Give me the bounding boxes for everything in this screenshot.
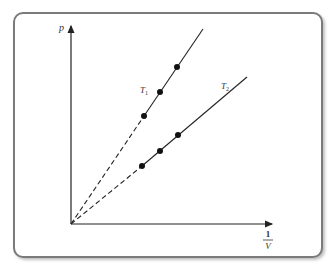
y-axis-label: p xyxy=(58,22,64,33)
t1-label: T1 xyxy=(140,85,148,96)
t1-point xyxy=(174,64,180,70)
pv-diagram: p 1 V T1 T2 xyxy=(0,0,330,265)
t1-point xyxy=(141,113,147,119)
t2-extrapolation-dashed xyxy=(71,166,142,224)
t2-label: T2 xyxy=(221,81,229,92)
t1-line xyxy=(144,29,203,116)
t1-extrapolation-dashed xyxy=(71,116,144,224)
t2-point xyxy=(157,148,163,154)
t2-point xyxy=(175,132,181,138)
x-axis-label-numerator: 1 xyxy=(266,229,271,239)
t1-point xyxy=(157,89,163,95)
t2-point xyxy=(139,163,145,169)
x-axis-label-denominator: V xyxy=(265,241,272,251)
